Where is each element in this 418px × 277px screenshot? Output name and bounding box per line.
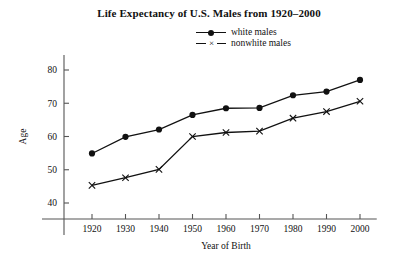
data-point-marker [290, 92, 296, 98]
data-series-layer [89, 77, 363, 189]
y-tick-label: 40 [48, 198, 58, 208]
plot-area: 4050607080192019301940195019601970198019… [0, 0, 418, 277]
x-tick-label: 2000 [351, 224, 370, 234]
data-point-marker [89, 150, 95, 156]
x-tick-label: 1920 [83, 224, 102, 234]
x-tick-label: 1940 [150, 224, 169, 234]
x-tick-label: 1970 [250, 224, 269, 234]
series-line-nonwhite-males [92, 101, 360, 185]
x-tick-label: 1990 [317, 224, 336, 234]
data-point-marker [189, 112, 195, 118]
data-point-marker [357, 98, 363, 104]
axis-tick-labels: 4050607080192019301940195019601970198019… [48, 65, 370, 234]
data-point-marker [323, 89, 329, 95]
x-tick-label: 1930 [116, 224, 135, 234]
y-tick-label: 80 [48, 65, 58, 75]
x-tick-label: 1980 [284, 224, 303, 234]
data-point-marker [122, 134, 128, 140]
data-point-marker [357, 77, 363, 83]
data-point-marker [156, 126, 162, 132]
series-line-white-males [92, 80, 360, 153]
x-tick-label: 1960 [217, 224, 236, 234]
y-tick-label: 50 [48, 165, 58, 175]
x-tick-label: 1950 [183, 224, 202, 234]
axes [42, 55, 377, 235]
y-tick-label: 60 [48, 132, 58, 142]
x-axis-title: Year of Birth [201, 241, 251, 251]
data-point-marker [256, 105, 262, 111]
y-axis-title: Age [18, 129, 28, 145]
data-point-marker [223, 105, 229, 111]
y-tick-label: 70 [48, 99, 58, 109]
chart-figure: Life Expectancy of U.S. Males from 1920–… [0, 0, 418, 277]
